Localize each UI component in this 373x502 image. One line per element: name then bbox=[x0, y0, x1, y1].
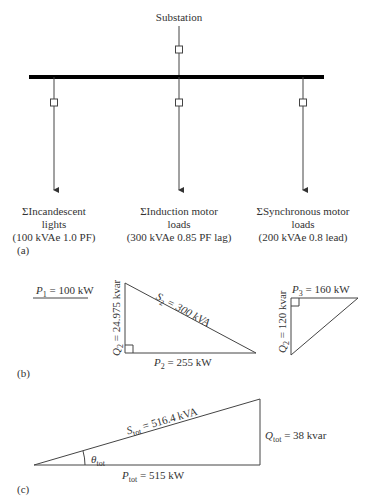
load-rating: (200 kVAe 0.8 lead) bbox=[259, 231, 348, 243]
breaker-lights bbox=[51, 99, 58, 106]
part-b-label: (b) bbox=[17, 367, 30, 379]
load-subtitle: lights bbox=[42, 218, 66, 230]
theta-arc bbox=[83, 451, 85, 465]
power-triangle-3 bbox=[291, 298, 358, 355]
load-subtitle: loads bbox=[167, 218, 190, 230]
diagram-lines bbox=[0, 0, 373, 502]
load-rating: (100 kVAe 1.0 PF) bbox=[13, 231, 96, 243]
q3-label: Q2 = 120 kvar bbox=[276, 291, 288, 353]
p3-label: P3 = 160 kW bbox=[292, 283, 350, 295]
load-subtitle: loads bbox=[291, 218, 314, 230]
qtot-label: Qtot = 38 kvar bbox=[265, 429, 326, 441]
substation-breaker bbox=[176, 46, 183, 53]
load-rating: (300 kVAe 0.85 PF lag) bbox=[127, 231, 232, 243]
breaker-induction bbox=[176, 99, 183, 106]
part-c-label: (c) bbox=[17, 483, 29, 495]
substation-label: Substation bbox=[156, 11, 202, 23]
q2-label: Q2 = 24.975 kvar bbox=[110, 280, 122, 356]
load-title: ΣInduction motor bbox=[140, 205, 218, 217]
ptot-label: Ptot = 515 kW bbox=[122, 469, 184, 481]
p1-label: P1 = 100 kW bbox=[36, 284, 94, 296]
total-power-triangle bbox=[34, 399, 260, 465]
right-angle-marker-3 bbox=[291, 298, 299, 306]
load-title: ΣSynchronous motor bbox=[257, 205, 350, 217]
load-title: ΣIncandescent bbox=[22, 205, 86, 217]
p2-label: P2 = 255 kW bbox=[154, 356, 212, 368]
part-a-label: (a) bbox=[17, 244, 29, 256]
right-angle-marker-2 bbox=[125, 345, 133, 353]
theta-label: θtot bbox=[91, 453, 105, 465]
breaker-synchronous bbox=[300, 99, 307, 106]
